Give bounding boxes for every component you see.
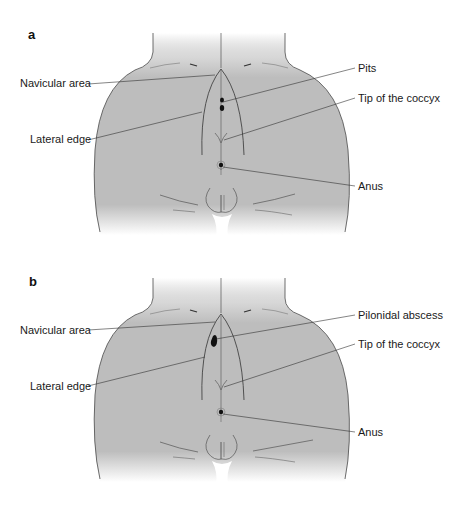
label-anus: Anus bbox=[358, 180, 383, 193]
buttocks-illustration-a bbox=[0, 0, 463, 250]
label-navicular-area: Navicular area bbox=[20, 77, 91, 90]
label-pits: Pits bbox=[358, 62, 376, 75]
label-lateral-edge: Lateral edge bbox=[30, 133, 91, 146]
label-pilonidal-abscess: Pilonidal abscess bbox=[358, 309, 443, 322]
panel-letter: b bbox=[29, 274, 37, 289]
label-tip-of-coccyx: Tip of the coccyx bbox=[358, 92, 440, 105]
label-anus: Anus bbox=[358, 426, 383, 439]
label-lateral-edge: Lateral edge bbox=[30, 380, 91, 393]
label-tip-of-coccyx: Tip of the coccyx bbox=[358, 338, 440, 351]
buttocks-illustration-b bbox=[0, 250, 463, 505]
label-navicular-area: Navicular area bbox=[20, 324, 91, 337]
panel-a: a Navicular area Lateral edge Pits Tip o… bbox=[0, 0, 463, 250]
panel-letter: a bbox=[28, 27, 35, 42]
panel-b: b Navicular area Lateral edge Pilonidal … bbox=[0, 250, 463, 505]
